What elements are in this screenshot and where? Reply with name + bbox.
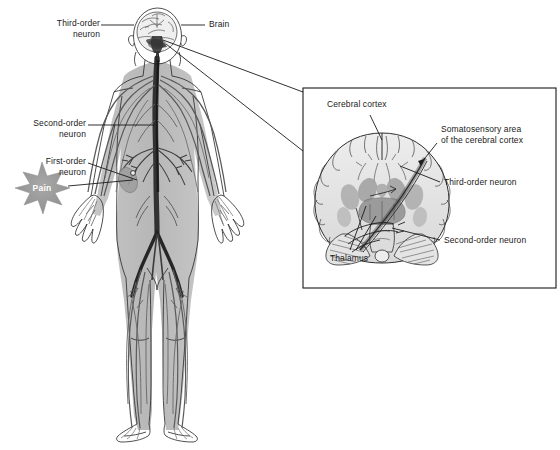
label-somatosensory-area: Somatosensory area of the cerebral corte… (441, 124, 523, 145)
label-inset-second-order-neuron: Second-order neuron (444, 235, 526, 246)
label-first-order-neuron-body: First-order neuron (18, 156, 86, 177)
label-brain: Brain (209, 19, 229, 30)
label-inset-third-order-neuron: Third-order neuron (444, 177, 517, 188)
label-second-order-neuron-body: Second-order neuron (12, 118, 86, 139)
label-cerebral-cortex: Cerebral cortex (327, 99, 387, 110)
label-pain: Pain (22, 183, 62, 193)
label-third-order-neuron-body: Third-order neuron (38, 18, 100, 39)
label-thalamus: Thalamus (330, 253, 368, 264)
pain-pathway-figure (0, 0, 560, 450)
